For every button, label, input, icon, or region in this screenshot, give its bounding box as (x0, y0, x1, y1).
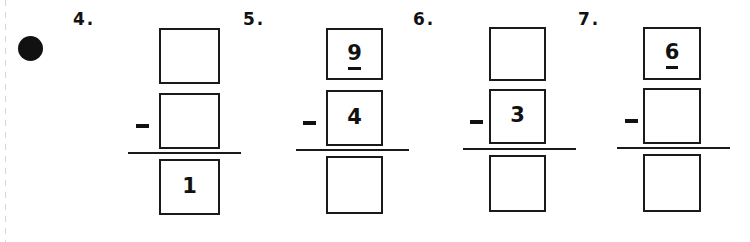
minuend-box-5[interactable]: 9 (326, 28, 383, 80)
minuend-digit-5: 9 (347, 43, 362, 64)
minuend-digit-7: 6 (665, 42, 680, 63)
worksheet-page: 4. 1 5. 9 4 6. 3 (0, 0, 750, 242)
subtrahend-box-7[interactable] (643, 88, 701, 144)
subtrahend-box-5[interactable]: 4 (326, 90, 383, 146)
minus-operator-7 (625, 119, 638, 123)
problem-number-7: 7. (578, 11, 600, 28)
minus-operator-6 (470, 120, 483, 124)
subtraction-rule-6 (463, 148, 576, 150)
difference-box-6[interactable] (489, 155, 546, 212)
problem-7: 6 (0, 0, 170, 242)
difference-box-7[interactable] (643, 154, 701, 212)
problem-number-6: 6. (413, 11, 435, 28)
minuend-box-6[interactable] (489, 27, 546, 81)
subtrahend-digit-6: 3 (510, 105, 525, 126)
subtrahend-box-6[interactable]: 3 (489, 89, 546, 144)
subtrahend-digit-5: 4 (347, 107, 362, 128)
minus-operator-5 (303, 121, 316, 125)
minuend-box-7[interactable]: 6 (643, 27, 701, 80)
difference-digit-4: 1 (182, 176, 197, 197)
subtraction-rule-7 (617, 147, 730, 149)
subtraction-rule-5 (296, 149, 409, 151)
difference-box-5[interactable] (326, 156, 383, 214)
problem-number-5: 5. (243, 11, 265, 28)
